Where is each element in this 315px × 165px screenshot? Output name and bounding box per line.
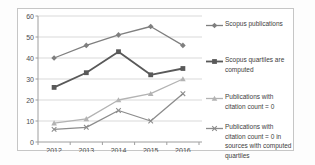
legend-key-marker xyxy=(212,59,217,64)
y-tick-label: 40 xyxy=(26,55,34,62)
line-chart-plot: 010203040506020122013201420152016 xyxy=(18,9,210,152)
legend-key-x-icon xyxy=(206,124,223,133)
series-0-marker-diamond xyxy=(84,43,90,49)
legend-label: Publications with citation count = 0 in … xyxy=(223,122,295,160)
legend-key-square-icon xyxy=(206,57,223,66)
x-tick-label: 2013 xyxy=(79,147,95,153)
legend-item-0: Scopus publications xyxy=(206,19,295,30)
legend-key-diamond-icon xyxy=(206,21,223,30)
series-1-marker-square xyxy=(52,85,57,90)
chart-frame: 010203040506020122013201420152016 Scopus… xyxy=(17,8,294,151)
y-tick-label: 60 xyxy=(26,13,34,20)
x-tick-label: 2016 xyxy=(175,147,191,153)
x-tick-label: 2012 xyxy=(46,147,62,153)
y-tick-label: 10 xyxy=(26,118,34,125)
legend-key-marker xyxy=(212,23,218,29)
y-tick-label: 0 xyxy=(30,139,34,146)
x-tick-label: 2015 xyxy=(143,147,159,153)
chart-legend: Scopus publicationsScopus quartiles are … xyxy=(206,9,294,152)
legend-item-2: Publications with citation count = 0 xyxy=(206,92,295,111)
y-tick-label: 50 xyxy=(26,34,34,41)
legend-item-3: Publications with citation count = 0 in … xyxy=(206,122,295,160)
legend-label: Scopus quartiles are computed xyxy=(223,55,295,74)
legend-label: Publications with citation count = 0 xyxy=(223,92,295,111)
series-0-marker-diamond xyxy=(148,24,154,30)
y-tick-label: 30 xyxy=(26,76,34,83)
series-line-1 xyxy=(54,52,183,88)
y-tick-label: 20 xyxy=(26,97,34,104)
series-0-marker-diamond xyxy=(180,43,186,49)
series-1-marker-square xyxy=(148,72,153,77)
x-tick-label: 2014 xyxy=(111,147,127,153)
series-1-marker-square xyxy=(181,66,186,71)
series-1-marker-square xyxy=(116,49,121,54)
legend-item-1: Scopus quartiles are computed xyxy=(206,55,295,74)
legend-label: Scopus publications xyxy=(223,19,295,29)
series-0-marker-diamond xyxy=(51,55,57,61)
series-1-marker-square xyxy=(84,70,89,75)
series-3-marker-x xyxy=(181,91,186,96)
legend-key-triangle-icon xyxy=(206,94,223,103)
